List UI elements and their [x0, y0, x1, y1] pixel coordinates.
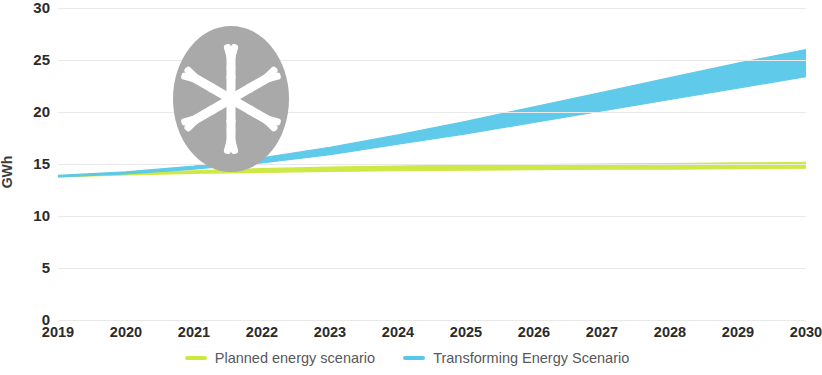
- legend-item[interactable]: Planned energy scenario: [185, 350, 375, 366]
- x-axis-tick-label: 2021: [178, 324, 210, 340]
- x-axis-tick-label: 2022: [246, 324, 278, 340]
- y-axis-tick-label: 10: [14, 208, 50, 223]
- x-axis-tick-label: 2028: [654, 324, 686, 340]
- gridline: [58, 8, 806, 9]
- x-axis-tick-label: 2027: [586, 324, 618, 340]
- series-band-transforming-energy-scenario: [58, 50, 806, 177]
- x-axis-tick-label: 2023: [314, 324, 346, 340]
- chart-legend: Planned energy scenarioTransforming Ener…: [0, 350, 814, 366]
- gridline: [58, 320, 806, 321]
- gridline: [58, 60, 806, 61]
- x-axis-tick-label: 2024: [382, 324, 414, 340]
- y-axis-tick-label: 25: [14, 52, 50, 67]
- gridline: [58, 164, 806, 165]
- legend-swatch: [403, 356, 425, 360]
- legend-item[interactable]: Transforming Energy Scenario: [403, 350, 629, 366]
- x-axis-tick-label: 2025: [450, 324, 482, 340]
- legend-label: Transforming Energy Scenario: [433, 350, 629, 366]
- y-axis-tick-label: 5: [14, 260, 50, 275]
- plot-area: [58, 8, 806, 320]
- x-axis-tick-label: 2026: [518, 324, 550, 340]
- x-axis-tick-label: 2019: [42, 324, 74, 340]
- gridline: [58, 268, 806, 269]
- legend-swatch: [185, 356, 207, 360]
- x-axis-tick-label: 2030: [790, 324, 822, 340]
- gridline: [58, 216, 806, 217]
- x-axis-tick-label: 2020: [110, 324, 142, 340]
- y-axis-tick-labels: 051015202530: [10, 0, 50, 330]
- legend-label: Planned energy scenario: [215, 350, 375, 366]
- y-axis-tick-label: 20: [14, 104, 50, 119]
- gridline: [58, 112, 806, 113]
- y-axis-tick-label: 15: [14, 156, 50, 171]
- x-axis-tick-label: 2029: [722, 324, 754, 340]
- y-axis-tick-label: 30: [14, 0, 50, 15]
